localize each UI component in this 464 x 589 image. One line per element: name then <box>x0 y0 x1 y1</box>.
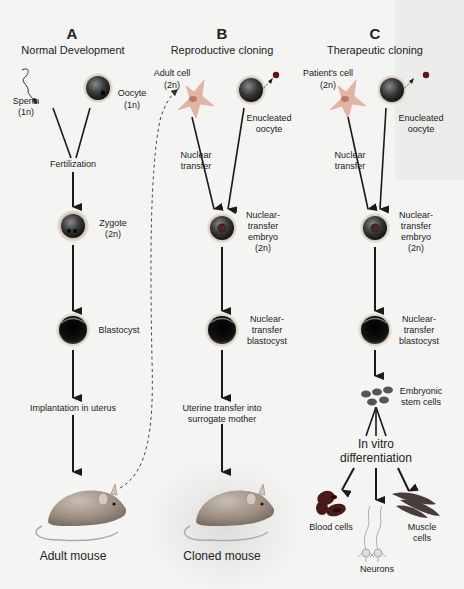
patients-cell-ploidy: (2n) <box>298 80 358 91</box>
enucleated-oocyte-icon-c <box>377 72 429 105</box>
zygote-label: Zygote <box>93 218 133 229</box>
neurons-label: Neurons <box>352 564 402 575</box>
column-c-title: Therapeutic cloning <box>315 44 435 56</box>
cloning-diagram: A Normal Development Sperm (1n) Oocyte (… <box>0 0 464 589</box>
zygote-ploidy: (2n) <box>93 229 133 240</box>
nt-embryo-label-4: (2n) <box>243 243 283 254</box>
stem-cells-label-2: stem cells <box>398 397 444 408</box>
diagram-graphics <box>0 0 464 589</box>
embryonic-stem-cells-icon <box>361 387 393 406</box>
nt-embryo-label-3: embryo <box>243 232 283 243</box>
blood-cells-icon <box>315 488 347 518</box>
muscle-cells-icon <box>392 492 440 518</box>
oocyte-label: Oocyte <box>114 88 150 99</box>
nt-embryo-c-label-4: (2n) <box>396 243 436 254</box>
nt-embryo-c-label-1: Nuclear- <box>396 210 436 221</box>
oocyte-icon <box>83 73 113 103</box>
column-b-title: Reproductive cloning <box>162 44 282 56</box>
stem-cells-label-1: Embryonic <box>398 386 444 397</box>
zygote-icon <box>57 210 89 242</box>
blood-cells-label: Blood cells <box>305 522 357 533</box>
enucleated-oocyte-icon <box>236 72 279 105</box>
nuclear-transfer-c-label-1: Nuclear <box>330 150 370 161</box>
adult-mouse-icon <box>36 484 126 541</box>
in-vitro-label-1: In vitro <box>330 437 422 451</box>
uterine-transfer-label-2: surrogate mother <box>172 414 272 425</box>
adult-cell-ploidy: (2n) <box>150 80 194 91</box>
dashed-source-arrow <box>120 90 177 488</box>
muscle-cells-label-1: Muscle <box>402 522 442 533</box>
nt-blastocyst-c-label-2: transfer <box>396 325 442 336</box>
cloned-mouse-label: Cloned mouse <box>172 549 272 563</box>
uterine-transfer-label-1: Uterine transfer into <box>172 403 272 414</box>
nt-embryo-c-label-3: embryo <box>396 232 436 243</box>
fertilization-label: Fertilization <box>38 159 108 170</box>
nuclear-transfer-label-1: Nuclear <box>176 150 216 161</box>
in-vitro-label-2: differentiation <box>330 451 422 465</box>
patients-cell-label: Patient's cell <box>298 68 358 79</box>
nt-blastocyst-label-1: Nuclear- <box>244 314 290 325</box>
blastocyst-icon <box>56 313 90 347</box>
sperm-ploidy: (1n) <box>6 107 46 118</box>
adult-cell-label: Adult cell <box>150 68 194 79</box>
nuclear-transfer-embryo-icon-c <box>360 213 390 243</box>
enucleated-oocyte-label-1: Enucleated <box>244 113 294 124</box>
nuclear-transfer-blastocyst-icon-c <box>358 313 392 347</box>
nt-blastocyst-label-3: blastocyst <box>244 336 290 347</box>
column-a-title: Normal Development <box>13 44 133 56</box>
implantation-label: Implantation in uterus <box>18 403 128 414</box>
adult-mouse-label: Adult mouse <box>23 549 123 563</box>
neurons-icon <box>358 506 386 562</box>
enucleated-oocyte-c-label-2: oocyte <box>396 124 446 135</box>
column-b-letter: B <box>202 25 242 42</box>
nt-embryo-label-2: transfer <box>243 221 283 232</box>
column-c-letter: C <box>355 25 395 42</box>
nuclear-transfer-c-label-2: transfer <box>330 161 370 172</box>
enucleated-oocyte-c-label-1: Enucleated <box>396 113 446 124</box>
nt-blastocyst-c-label-1: Nuclear- <box>396 314 442 325</box>
sperm-label: Sperm <box>6 96 46 107</box>
nuclear-transfer-label-2: transfer <box>176 161 216 172</box>
muscle-cells-label-2: cells <box>402 533 442 544</box>
nuclear-transfer-blastocyst-icon <box>205 313 239 347</box>
oocyte-ploidy: (1n) <box>114 100 150 111</box>
nt-blastocyst-label-2: transfer <box>244 325 290 336</box>
nt-embryo-label-1: Nuclear- <box>243 210 283 221</box>
nuclear-transfer-embryo-icon <box>207 213 237 243</box>
enucleated-oocyte-label-2: oocyte <box>244 124 294 135</box>
cloned-mouse-icon <box>184 484 274 541</box>
nt-blastocyst-c-label-3: blastocyst <box>396 336 442 347</box>
blastocyst-label: Blastocyst <box>94 325 144 336</box>
column-a-letter: A <box>52 25 92 42</box>
nt-embryo-c-label-2: transfer <box>396 221 436 232</box>
